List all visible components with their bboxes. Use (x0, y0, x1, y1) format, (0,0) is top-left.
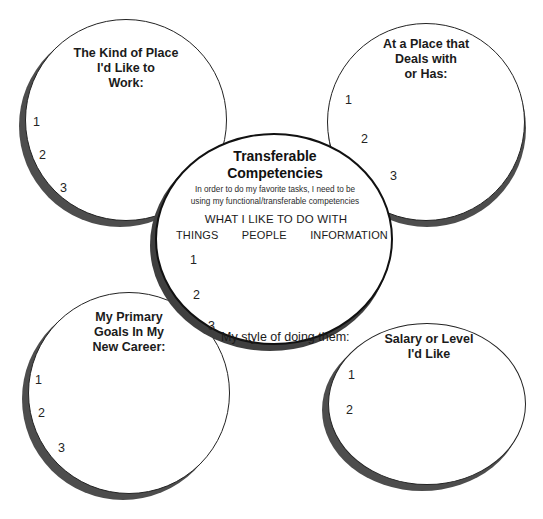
center-item-1: 1 (190, 254, 197, 267)
petal-title-kind-of-place: The Kind of Place I'd Like to Work: (46, 46, 206, 91)
petal-item-salary-or-level-1: 1 (348, 369, 355, 382)
center-item-3: 3 (208, 320, 215, 333)
center-column-information: INFORMATION (310, 229, 388, 241)
petal-item-place-deals-with-3: 3 (390, 170, 397, 183)
petal-item-salary-or-level-2: 2 (346, 404, 353, 417)
petal-item-kind-of-place-3: 3 (60, 182, 67, 195)
center-item-2: 2 (193, 289, 200, 302)
center-subtitle: In order to do my favorite tasks, I need… (172, 184, 378, 207)
center-column-people: PEOPLE (242, 229, 287, 241)
petal-item-place-deals-with-1: 1 (345, 94, 352, 107)
petal-item-place-deals-with-2: 2 (361, 133, 368, 146)
center-column-things: THINGS (176, 229, 218, 241)
petal-item-primary-goals-2: 2 (38, 407, 45, 420)
petal-title-place-deals-with: At a Place that Deals with or Has: (348, 37, 504, 82)
petal-item-kind-of-place-2: 2 (39, 149, 46, 162)
petal-item-kind-of-place-1: 1 (33, 116, 40, 129)
flower-diagram: The Kind of Place I'd Like to Work: 1 2 … (0, 0, 543, 519)
petal-item-primary-goals-3: 3 (58, 442, 65, 455)
center-style-label: My style of doing them: (221, 330, 350, 344)
center-title: Transferable Competencies (185, 148, 365, 182)
center-columns: THINGS PEOPLE INFORMATION (176, 229, 388, 241)
petal-item-primary-goals-1: 1 (35, 374, 42, 387)
center-what-heading: WHAT I LIKE TO DO WITH (178, 213, 374, 225)
petal-title-salary-or-level: Salary or Level I'd Like (350, 332, 508, 362)
